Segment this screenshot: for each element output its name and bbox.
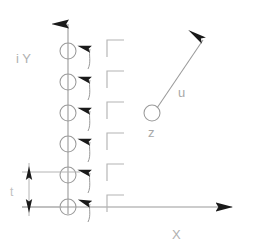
flow-arrow [88,80,90,100]
dimension-label: t [10,185,14,199]
corner-bracket [107,40,124,57]
vortex-sheet-diagram: X i Y [0,0,258,252]
corner-bracket [107,102,124,119]
corner-bracket-group [107,40,124,212]
dimension-marker-group [22,163,80,216]
flow-arrow [88,111,90,131]
y-axis-label: i Y [16,51,31,66]
vector-origin-marker [144,105,160,121]
corner-bracket [107,164,124,181]
corner-bracket [107,133,124,150]
flow-arrow [88,142,90,162]
vector-u-label: u [178,85,185,100]
corner-bracket [107,71,124,88]
vector-u-group [144,40,203,121]
vector-origin-label: z [148,125,155,140]
flow-arrow-group [88,49,90,222]
corner-bracket [107,195,124,212]
x-axis-label: X [172,227,181,242]
diagram-canvas: X i Y [0,0,258,252]
flow-arrow [88,173,90,193]
flow-arrow [88,49,90,69]
